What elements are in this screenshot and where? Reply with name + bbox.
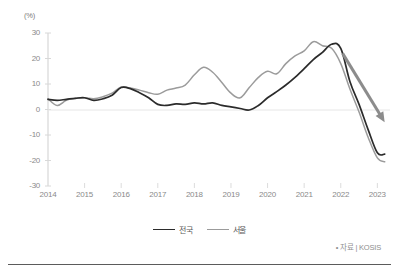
data-series-layer	[48, 42, 385, 162]
series-line-nationwide	[48, 43, 385, 155]
axis-lines	[45, 33, 390, 188]
footer-divider	[8, 264, 391, 265]
legend-item-label: 서울	[233, 224, 246, 235]
legend-item[interactable]: 전국	[153, 224, 192, 235]
source-note: • 자료 | KOSIS	[336, 241, 381, 252]
series-line-seoul	[48, 42, 385, 162]
legend-line-swatch	[153, 229, 175, 230]
legend-item[interactable]: 서울	[207, 224, 246, 235]
chart-legend: 전국서울	[0, 224, 399, 235]
legend-line-swatch	[207, 229, 229, 230]
chart-figure: (%) 3020100-10-20-30 2014201520162017201…	[0, 0, 399, 275]
legend-item-label: 전국	[179, 224, 192, 235]
